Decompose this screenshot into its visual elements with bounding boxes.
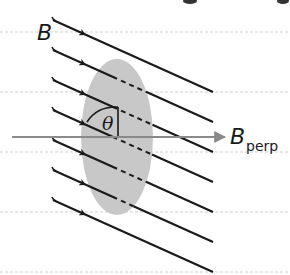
- field-line: [146, 182, 213, 212]
- b-perp-main: B: [230, 124, 245, 149]
- field-label-b: B: [37, 22, 52, 44]
- b-perp-subscript: perp: [246, 138, 278, 154]
- angle-label-theta: θ: [102, 114, 113, 133]
- field-line: [146, 92, 213, 122]
- field-line: [153, 125, 214, 152]
- b-perp-label: Bperp: [230, 126, 278, 148]
- cropped-heading-fragment: [183, 0, 289, 4]
- flux-diagram: B θ Bperp: [0, 0, 290, 275]
- field-line: [152, 155, 213, 182]
